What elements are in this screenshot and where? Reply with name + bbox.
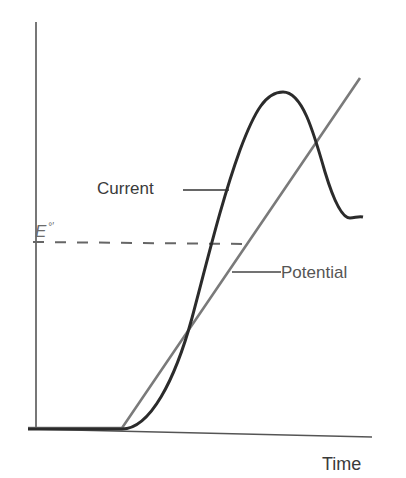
e-standard-dashed-line	[33, 242, 248, 244]
current-label: Current	[97, 180, 154, 197]
e-symbol: E	[35, 222, 46, 241]
potential-line	[28, 78, 360, 428]
voltammetry-diagram	[0, 0, 406, 478]
time-axis-label: Time	[322, 455, 361, 473]
potential-label: Potential	[281, 264, 347, 281]
e-standard-label: E°′	[35, 222, 54, 240]
current-curve	[28, 92, 363, 429]
e-superscript: °′	[48, 221, 54, 232]
